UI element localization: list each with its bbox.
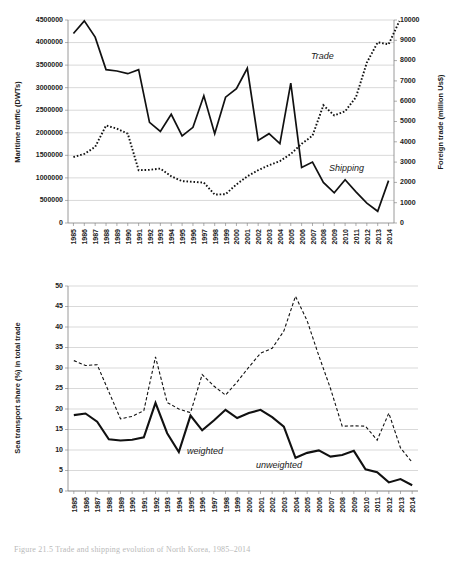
svg-text:2003: 2003	[266, 229, 273, 245]
svg-text:5000: 5000	[400, 117, 416, 124]
top-chart-gridlines	[68, 20, 394, 200]
annotation-unweighted: unweighted	[256, 460, 303, 470]
svg-text:1500000: 1500000	[36, 151, 63, 158]
svg-text:2014: 2014	[409, 497, 416, 513]
annotation-trade: Trade	[311, 51, 334, 61]
svg-text:30: 30	[55, 364, 63, 371]
svg-text:4000000: 4000000	[36, 38, 63, 45]
svg-text:1996: 1996	[199, 497, 206, 513]
svg-text:1991: 1991	[136, 229, 143, 245]
svg-text:1994: 1994	[168, 229, 175, 245]
svg-text:1999: 1999	[223, 229, 230, 245]
svg-text:0: 0	[59, 487, 63, 494]
svg-text:2011: 2011	[353, 229, 360, 244]
bottom-chart-svg: 05101520253035404550 1985198619871988198…	[0, 272, 455, 540]
series-unweighted-line	[74, 296, 412, 462]
svg-text:25: 25	[55, 384, 63, 391]
svg-text:2009: 2009	[351, 497, 358, 513]
svg-text:1985: 1985	[70, 229, 77, 245]
svg-text:2014: 2014	[386, 229, 393, 245]
svg-text:2008: 2008	[339, 497, 346, 513]
svg-text:2001: 2001	[244, 229, 251, 245]
svg-text:3000: 3000	[400, 158, 416, 165]
svg-text:2000: 2000	[400, 178, 416, 185]
svg-text:4000: 4000	[400, 138, 416, 145]
top-right-tick-labels: 0100020003000400050006000700080009000100…	[400, 16, 420, 226]
svg-text:1989: 1989	[118, 497, 125, 513]
svg-text:1995: 1995	[188, 497, 195, 513]
figure-caption: Figure 21.5 Trade and shipping evolution…	[14, 545, 444, 559]
svg-text:1998: 1998	[212, 229, 219, 245]
svg-text:2007: 2007	[328, 497, 335, 513]
svg-text:2005: 2005	[288, 229, 295, 245]
svg-text:7000: 7000	[400, 77, 416, 84]
svg-text:15: 15	[55, 425, 63, 432]
annotation-shipping: Shipping	[329, 163, 364, 173]
svg-text:20: 20	[55, 405, 63, 412]
svg-text:45: 45	[55, 302, 63, 309]
svg-text:2010: 2010	[363, 497, 370, 513]
svg-text:2006: 2006	[299, 229, 306, 245]
svg-text:2000: 2000	[246, 497, 253, 513]
svg-text:2013: 2013	[375, 229, 382, 245]
top-chart-tickmarks	[65, 20, 397, 226]
svg-text:1988: 1988	[103, 229, 110, 245]
svg-text:1997: 1997	[201, 229, 208, 245]
svg-text:1992: 1992	[153, 497, 160, 513]
svg-text:2013: 2013	[398, 497, 405, 513]
svg-text:1996: 1996	[190, 229, 197, 245]
svg-text:1999: 1999	[234, 497, 241, 513]
svg-text:2012: 2012	[386, 497, 393, 513]
svg-text:2006: 2006	[316, 497, 323, 513]
svg-text:4500000: 4500000	[36, 16, 63, 23]
svg-text:0: 0	[400, 219, 404, 226]
svg-text:2002: 2002	[255, 229, 262, 245]
svg-text:1986: 1986	[83, 497, 90, 513]
svg-text:2005: 2005	[304, 497, 311, 513]
svg-text:2500000: 2500000	[36, 106, 63, 113]
svg-text:1995: 1995	[179, 229, 186, 245]
svg-text:35: 35	[55, 343, 63, 350]
svg-text:1000: 1000	[400, 199, 416, 206]
svg-text:1998: 1998	[223, 497, 230, 513]
svg-text:1993: 1993	[164, 497, 171, 513]
svg-text:40: 40	[55, 323, 63, 330]
series-weighted-line	[74, 403, 412, 485]
svg-text:10: 10	[55, 446, 63, 453]
svg-text:1986: 1986	[81, 229, 88, 245]
svg-text:1993: 1993	[157, 229, 164, 245]
svg-text:6000: 6000	[400, 97, 416, 104]
svg-text:1000000: 1000000	[36, 174, 63, 181]
svg-text:1987: 1987	[94, 497, 101, 513]
svg-text:2012: 2012	[364, 229, 371, 245]
top-chart-svg: 0500000100000015000002000000250000030000…	[0, 0, 455, 272]
svg-text:2002: 2002	[269, 497, 276, 513]
top-left-axis-title: Maritime traffic (DWTs)	[13, 81, 22, 163]
bottom-left-tick-labels: 05101520253035404550	[55, 282, 63, 494]
figure-page: 0500000100000015000002000000250000030000…	[0, 0, 455, 561]
svg-text:2008: 2008	[320, 229, 327, 245]
svg-text:1989: 1989	[114, 229, 121, 245]
svg-text:1990: 1990	[129, 497, 136, 513]
svg-text:5: 5	[59, 466, 63, 473]
top-left-tick-labels: 0500000100000015000002000000250000030000…	[36, 16, 63, 226]
svg-text:2003: 2003	[281, 497, 288, 513]
svg-text:8000: 8000	[400, 56, 416, 63]
top-x-tick-labels: 1985198619871988198919901991199219931994…	[70, 229, 392, 245]
svg-text:1987: 1987	[92, 229, 99, 245]
svg-text:2000: 2000	[233, 229, 240, 245]
svg-text:0: 0	[59, 219, 63, 226]
svg-text:2004: 2004	[293, 497, 300, 513]
svg-text:2010: 2010	[342, 229, 349, 245]
top-right-axis-title: Foreign trade (million Us$)	[436, 74, 445, 170]
svg-text:3500000: 3500000	[36, 61, 63, 68]
svg-text:1985: 1985	[71, 497, 78, 513]
svg-text:1988: 1988	[106, 497, 113, 513]
bottom-x-tick-labels: 1985198619871988198919901991199219931994…	[71, 497, 416, 513]
svg-text:1991: 1991	[141, 497, 148, 513]
bottom-chart-figure: 05101520253035404550 1985198619871988198…	[0, 272, 455, 540]
svg-text:2007: 2007	[310, 229, 317, 245]
svg-text:1992: 1992	[147, 229, 154, 245]
svg-text:9000: 9000	[400, 36, 416, 43]
svg-text:2004: 2004	[277, 229, 284, 245]
